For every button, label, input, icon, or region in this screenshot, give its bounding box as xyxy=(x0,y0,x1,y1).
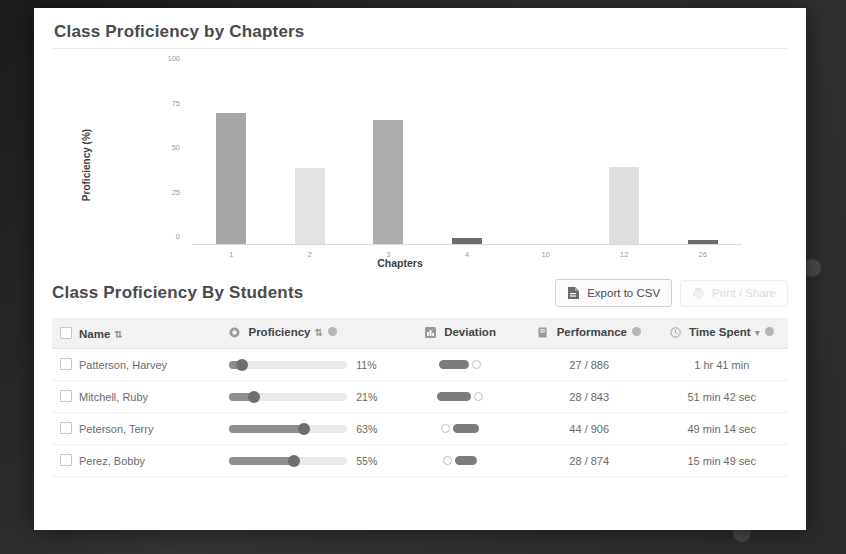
cell-deviation xyxy=(398,413,523,445)
proficiency-percent: 63% xyxy=(356,423,382,435)
chart-bar-slot[interactable]: 2 xyxy=(271,67,350,245)
chart-bar-slot[interactable]: 3 xyxy=(349,67,428,245)
chart-bar-slot[interactable]: 12 xyxy=(585,67,664,245)
chart-card-title: Class Proficiency by Chapters xyxy=(52,8,788,48)
proficiency-percent: 21% xyxy=(356,391,382,403)
students-header: Class Proficiency By Students Export to … xyxy=(52,271,788,307)
print-share-button[interactable]: Print / Share xyxy=(680,280,788,307)
proficiency-percent: 55% xyxy=(356,455,382,467)
bottom-fade xyxy=(34,514,806,530)
cell-performance: 27 / 886 xyxy=(523,349,655,381)
chart-bar[interactable] xyxy=(373,120,403,245)
chart-bar-slot[interactable]: 4 xyxy=(428,67,507,245)
proficiency-meter: 55% xyxy=(229,455,390,467)
chart-bar[interactable] xyxy=(216,113,246,245)
chart-x-axis-label: Chapters xyxy=(52,257,788,269)
chart-x-axis-label-text: Chapters xyxy=(377,257,423,269)
proficiency-knob xyxy=(236,359,248,371)
cell-name: Perez, Bobby xyxy=(52,445,221,477)
row-checkbox[interactable] xyxy=(60,390,72,402)
chart-bar[interactable] xyxy=(295,168,325,245)
cell-name: Peterson, Terry xyxy=(52,413,221,445)
deviation-marker xyxy=(474,392,483,401)
proficiency-meter: 21% xyxy=(229,391,390,403)
select-all-checkbox[interactable] xyxy=(60,327,72,339)
printer-icon xyxy=(692,287,705,300)
deviation-indicator xyxy=(406,424,515,433)
info-icon-proficiency[interactable] xyxy=(328,327,337,336)
chart-icon xyxy=(425,328,439,340)
cell-time-spent: 49 min 14 sec xyxy=(655,413,788,445)
chart-y-axis-label: Proficiency (%) xyxy=(81,129,92,201)
cell-time-spent: 1 hr 41 min xyxy=(655,349,788,381)
cell-time-spent: 15 min 49 sec xyxy=(655,445,788,477)
chapters-chart-card: Class Proficiency by Chapters Proficienc… xyxy=(34,8,806,271)
deviation-pill xyxy=(455,456,477,465)
target-icon xyxy=(229,328,243,340)
chart-y-tick: 75 xyxy=(172,98,180,107)
student-name: Peterson, Terry xyxy=(79,423,153,435)
students-section: Class Proficiency By Students Export to … xyxy=(34,271,806,477)
proficiency-knob xyxy=(248,391,260,403)
col-name[interactable]: Name⇅ xyxy=(52,318,221,349)
cell-proficiency: 11% xyxy=(221,349,398,381)
info-icon-time-spent[interactable] xyxy=(765,327,774,336)
deviation-indicator xyxy=(406,392,515,401)
deviation-pill xyxy=(437,392,471,401)
row-checkbox[interactable] xyxy=(60,422,72,434)
chart-bars: 1234101226 xyxy=(192,67,742,245)
export-to-csv-button[interactable]: Export to CSV xyxy=(555,279,672,307)
cell-proficiency: 63% xyxy=(221,413,398,445)
info-icon-performance[interactable] xyxy=(632,327,641,336)
col-proficiency[interactable]: Proficiency⇅ xyxy=(221,318,398,349)
chart-y-tick: 25 xyxy=(172,187,180,196)
students-table: Name⇅ Proficiency⇅ Deviation xyxy=(52,318,788,477)
col-time-spent[interactable]: Time Spent▾ xyxy=(655,318,788,349)
cell-name: Mitchell, Ruby xyxy=(52,381,221,413)
sort-icon-proficiency[interactable]: ⇅ xyxy=(314,327,322,338)
book-icon xyxy=(537,328,551,340)
chart-bar-slot[interactable]: 10 xyxy=(506,67,585,245)
proficiency-bar-chart: Proficiency (%) 0255075100 1234101226 Ch… xyxy=(52,59,788,271)
row-checkbox[interactable] xyxy=(60,358,72,370)
cell-performance: 28 / 843 xyxy=(523,381,655,413)
proficiency-meter: 11% xyxy=(229,359,390,371)
students-table-head: Name⇅ Proficiency⇅ Deviation xyxy=(52,318,788,349)
cell-performance: 28 / 874 xyxy=(523,445,655,477)
col-name-label: Name xyxy=(79,328,110,340)
col-deviation-label: Deviation xyxy=(444,326,496,338)
col-performance[interactable]: Performance xyxy=(523,318,655,349)
sort-icon-name[interactable]: ⇅ xyxy=(114,329,122,340)
col-proficiency-label: Proficiency xyxy=(248,326,310,338)
cell-deviation xyxy=(398,445,523,477)
cell-time-spent: 51 min 42 sec xyxy=(655,381,788,413)
cell-proficiency: 21% xyxy=(221,381,398,413)
deviation-indicator xyxy=(406,456,515,465)
proficiency-track xyxy=(229,425,347,433)
table-header-row: Name⇅ Proficiency⇅ Deviation xyxy=(52,318,788,349)
proficiency-percent: 11% xyxy=(356,359,382,371)
cell-performance: 44 / 906 xyxy=(523,413,655,445)
table-row[interactable]: Mitchell, Ruby21%28 / 84351 min 42 sec xyxy=(52,381,788,413)
row-checkbox[interactable] xyxy=(60,454,72,466)
deviation-marker xyxy=(443,456,452,465)
chart-bar[interactable] xyxy=(609,167,639,245)
chart-x-axis-line xyxy=(192,244,742,245)
table-row[interactable]: Perez, Bobby55%28 / 87415 min 49 sec xyxy=(52,445,788,477)
student-name: Mitchell, Ruby xyxy=(79,391,148,403)
chart-y-tick: 0 xyxy=(176,232,180,241)
table-row[interactable]: Patterson, Harvey11%27 / 8861 hr 41 min xyxy=(52,349,788,381)
chart-bar-slot[interactable]: 1 xyxy=(192,67,271,245)
students-actions: Export to CSV Print / Share xyxy=(555,279,788,307)
proficiency-meter: 63% xyxy=(229,423,390,435)
chart-y-tick: 50 xyxy=(172,143,180,152)
deviation-marker xyxy=(441,424,450,433)
col-deviation[interactable]: Deviation xyxy=(398,318,523,349)
chart-plot-area: 0255075100 1234101226 xyxy=(192,67,742,245)
student-name: Patterson, Harvey xyxy=(79,359,167,371)
chart-bar-slot[interactable]: 26 xyxy=(663,67,742,245)
sort-icon-time-spent[interactable]: ▾ xyxy=(755,327,760,338)
title-divider xyxy=(52,48,788,49)
table-row[interactable]: Peterson, Terry63%44 / 90649 min 14 sec xyxy=(52,413,788,445)
deviation-pill xyxy=(439,360,469,369)
